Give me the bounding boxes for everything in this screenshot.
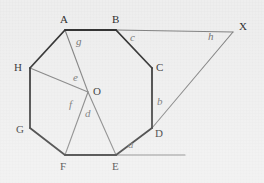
vertex-label-F: F [60,161,66,172]
vertex-label-B: B [112,14,119,25]
angle-c-label: c [130,32,135,43]
angle-e-label: e [73,72,78,83]
vertex-label-C: C [156,62,163,73]
angle-f-label: f [69,99,72,110]
vertex-label-D: D [155,128,163,139]
point-label-X: X [239,21,247,32]
diagram-canvas: ABCDEFGHOXabcdefgh [0,0,264,183]
angle-g-label: g [76,36,82,47]
radius-OH [30,68,88,92]
vertex-label-A: A [60,14,68,25]
vertex-label-E: E [112,161,119,172]
extension-DX [152,32,233,128]
octagon-outline-group [30,30,152,155]
octagon-figure [0,0,264,183]
vertex-label-H: H [14,62,22,73]
angle-d-label: d [85,108,91,119]
octagon-edge-FG [30,128,65,155]
octagon-edge-DE [116,128,152,155]
radius-OE [88,92,116,155]
angle-b-label: b [157,96,163,107]
angle-a-label: a [128,139,134,150]
octagon-edge-HA [30,30,65,68]
angle-h-label: h [208,31,214,42]
vertex-label-G: G [16,124,24,135]
point-label-O: O [93,86,101,97]
construction-lines-group [30,30,233,155]
